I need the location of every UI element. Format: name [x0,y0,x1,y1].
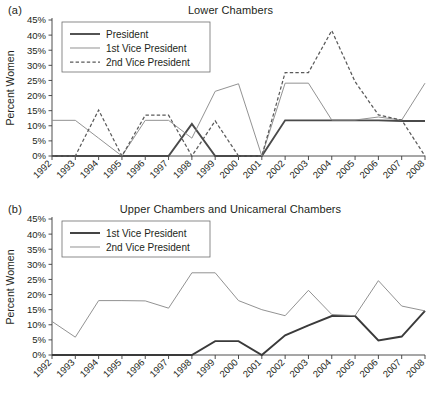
svg-text:30%: 30% [27,60,47,71]
svg-text:40%: 40% [27,229,47,240]
svg-text:10%: 10% [27,319,47,330]
svg-text:1999: 1999 [194,357,217,380]
svg-text:15%: 15% [27,304,47,315]
chart-panel-a: (a) Lower Chambers 0%5%10%15%20%25%30%35… [0,0,431,198]
svg-text:2006: 2006 [357,158,380,181]
svg-text:2006: 2006 [357,357,380,380]
svg-text:1995: 1995 [101,158,124,181]
svg-text:45%: 45% [27,14,47,25]
svg-text:1998: 1998 [171,357,194,380]
svg-text:2002: 2002 [264,357,287,380]
svg-text:President: President [106,29,148,40]
svg-text:2007: 2007 [380,158,403,181]
svg-text:2005: 2005 [334,357,357,380]
chart-panel-b: (b) Upper Chambers and Unicameral Chambe… [0,199,431,397]
svg-text:2008: 2008 [404,357,427,380]
svg-text:1993: 1993 [54,357,77,380]
svg-text:40%: 40% [27,30,47,41]
svg-text:2000: 2000 [217,357,240,380]
svg-text:2000: 2000 [217,158,240,181]
chart-svg-b: 0%5%10%15%20%25%30%35%40%45%199219931994… [0,199,431,397]
svg-text:2004: 2004 [310,357,333,380]
svg-text:5%: 5% [32,135,46,146]
svg-text:1996: 1996 [124,357,147,380]
svg-text:25%: 25% [27,274,47,285]
svg-text:1st Vice President: 1st Vice President [106,43,187,54]
svg-text:2001: 2001 [240,158,263,181]
svg-text:30%: 30% [27,259,47,270]
svg-text:1997: 1997 [147,158,170,181]
svg-text:2001: 2001 [240,357,263,380]
svg-text:10%: 10% [27,120,47,131]
svg-text:2002: 2002 [264,158,287,181]
svg-text:1998: 1998 [171,158,194,181]
svg-text:1997: 1997 [147,357,170,380]
figure-container: (a) Lower Chambers 0%5%10%15%20%25%30%35… [0,0,431,397]
svg-text:20%: 20% [27,289,47,300]
svg-text:2005: 2005 [334,158,357,181]
svg-text:45%: 45% [27,213,47,224]
svg-text:15%: 15% [27,105,47,116]
svg-text:2nd Vice President: 2nd Vice President [106,242,190,253]
svg-text:1999: 1999 [194,158,217,181]
svg-text:2003: 2003 [287,357,310,380]
svg-text:Percent Women: Percent Women [4,249,16,324]
svg-text:1993: 1993 [54,158,77,181]
svg-text:Percent Women: Percent Women [4,50,16,125]
svg-text:2nd Vice President: 2nd Vice President [106,57,190,68]
svg-text:1996: 1996 [124,158,147,181]
svg-text:1st Vice President: 1st Vice President [106,228,187,239]
svg-text:35%: 35% [27,45,47,56]
svg-text:2003: 2003 [287,158,310,181]
svg-text:25%: 25% [27,75,47,86]
svg-text:2007: 2007 [380,357,403,380]
svg-text:2004: 2004 [310,158,333,181]
svg-text:5%: 5% [32,334,46,345]
svg-text:1995: 1995 [101,357,124,380]
svg-text:1994: 1994 [77,357,100,380]
svg-text:1994: 1994 [77,158,100,181]
svg-text:2008: 2008 [404,158,427,181]
chart-svg-a: 0%5%10%15%20%25%30%35%40%45%199219931994… [0,0,431,198]
svg-text:20%: 20% [27,90,47,101]
svg-text:35%: 35% [27,244,47,255]
